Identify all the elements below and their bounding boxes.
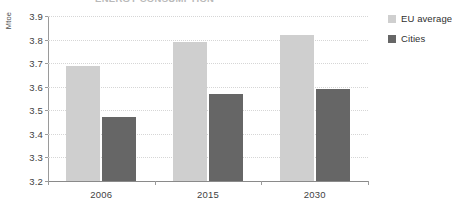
legend-swatch-icon (388, 15, 396, 23)
y-tick-label: 3.2 (29, 176, 43, 187)
y-tick-label: 3.9 (29, 11, 43, 22)
legend-label: EU average (401, 13, 452, 24)
bar-2015-cities (209, 94, 243, 181)
y-tick-label: 3.4 (29, 128, 43, 139)
chart-legend: EU averageCities (388, 13, 452, 53)
x-tick-mark (261, 181, 262, 185)
y-tick-label: 3.5 (29, 105, 43, 116)
chart-title-clipped: ENERGY CONSUMPTION (95, 0, 355, 7)
legend-swatch-icon (388, 35, 396, 43)
bar-2030-eu-average (280, 35, 314, 181)
chart-title-text: ENERGY CONSUMPTION (95, 0, 214, 4)
legend-item-eu-average[interactable]: EU average (388, 13, 452, 24)
x-axis: 200620152030 (48, 181, 368, 209)
y-tick-label: 3.3 (29, 152, 43, 163)
y-tick-label: 3.8 (29, 34, 43, 45)
bar-2030-cities (316, 89, 350, 181)
x-tick-label-2015: 2015 (197, 189, 219, 200)
y-axis-unit-label: Mtoe (4, 3, 13, 39)
x-tick-mark (368, 181, 369, 185)
x-tick-mark (48, 181, 49, 185)
y-tick-label: 3.6 (29, 81, 43, 92)
x-tick-mark (155, 181, 156, 185)
bar-2015-eu-average (173, 42, 207, 181)
bar-2006-eu-average (66, 66, 100, 182)
bars-group (48, 16, 368, 181)
legend-item-cities[interactable]: Cities (388, 33, 452, 44)
plot-area: 3.93.83.73.63.53.43.33.2 (48, 16, 368, 181)
x-tick-label-2030: 2030 (304, 189, 326, 200)
y-tick-label: 3.7 (29, 58, 43, 69)
x-tick-label-2006: 2006 (90, 189, 112, 200)
legend-label: Cities (401, 33, 425, 44)
bar-2006-cities (102, 117, 136, 181)
